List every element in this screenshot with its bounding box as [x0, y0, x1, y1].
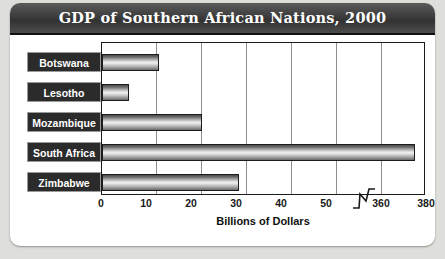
xtick-40: 40	[261, 197, 301, 209]
xtick-380: 380	[406, 197, 435, 209]
bar-south-africa	[102, 144, 415, 161]
xtick-20: 20	[171, 197, 211, 209]
category-label-mozambique: Mozambique	[27, 112, 101, 132]
category-label-zimbabwe: Zimbabwe	[27, 172, 101, 192]
bar-mozambique	[102, 114, 202, 131]
page-title: GDP of Southern African Nations, 2000	[10, 3, 435, 33]
gridline-50	[336, 43, 337, 194]
xtick-0: 0	[81, 197, 121, 209]
gridline-30	[246, 43, 247, 194]
xtick-360: 360	[361, 197, 401, 209]
gridline-360	[381, 43, 382, 194]
chart-card: GDP of Southern African Nations, 2000 Bo…	[10, 3, 435, 246]
bar-lesotho	[102, 84, 129, 101]
x-axis-title: Billions of Dollars	[101, 215, 425, 227]
category-label-south-africa: South Africa	[27, 142, 101, 162]
bar-botswana	[102, 54, 159, 71]
xtick-30: 30	[216, 197, 256, 209]
xtick-10: 10	[126, 197, 166, 209]
gridline-40	[291, 43, 292, 194]
category-label-lesotho: Lesotho	[27, 82, 101, 102]
category-label-botswana: Botswana	[27, 52, 101, 72]
bar-zimbabwe	[102, 174, 239, 191]
xtick-50: 50	[306, 197, 346, 209]
